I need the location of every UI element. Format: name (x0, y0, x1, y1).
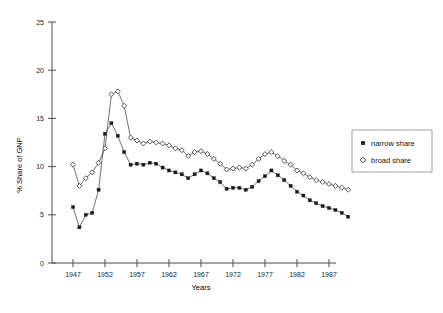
data-point (129, 163, 132, 166)
data-point (123, 151, 126, 154)
data-point (154, 140, 159, 145)
data-point (193, 173, 196, 176)
data-point (212, 177, 215, 180)
legend-label: broad share (371, 156, 411, 165)
data-point (103, 132, 106, 135)
data-point (269, 150, 274, 155)
x-axis-tick-label: 1947 (65, 271, 81, 278)
x-axis-title: Years (192, 283, 211, 292)
chart-figure: 0510152025194719521957196219671972197719… (0, 0, 443, 313)
y-axis-tick-label: 10 (36, 163, 44, 170)
x-axis-tick-label: 1962 (161, 271, 177, 278)
data-point (301, 171, 306, 176)
legend-box (352, 130, 432, 172)
data-point (231, 166, 236, 171)
data-point (339, 185, 344, 190)
data-point (334, 208, 337, 211)
data-point (327, 181, 332, 186)
data-point (84, 213, 87, 216)
data-point (347, 215, 350, 218)
data-point (283, 179, 286, 182)
chart-plot-svg: 0510152025194719521957196219671972197719… (0, 0, 443, 313)
data-point (320, 180, 325, 185)
x-axis-tick-label: 1982 (289, 271, 305, 278)
data-point (238, 186, 241, 189)
data-point (173, 146, 178, 151)
data-point (237, 165, 242, 170)
data-point (109, 92, 114, 97)
data-point (110, 122, 113, 125)
y-axis-tick-label: 25 (36, 19, 44, 26)
data-point (142, 163, 145, 166)
data-point (307, 175, 312, 180)
x-axis-tick-label: 1987 (321, 271, 337, 278)
data-point (199, 169, 202, 172)
data-point (206, 172, 209, 175)
data-point (167, 143, 172, 148)
data-point (192, 150, 197, 155)
data-point (327, 207, 330, 210)
data-point (244, 188, 247, 191)
x-axis-tick-label: 1957 (129, 271, 145, 278)
x-axis-tick-label: 1977 (257, 271, 273, 278)
data-point (71, 206, 74, 209)
data-point (167, 169, 170, 172)
x-axis-tick-label: 1972 (225, 271, 241, 278)
data-point (263, 175, 266, 178)
x-axis-tick-label: 1952 (97, 271, 113, 278)
y-axis-tick-label: 15 (36, 115, 44, 122)
data-point (243, 166, 248, 171)
data-point (333, 183, 338, 188)
data-point (289, 184, 292, 187)
data-point (340, 211, 343, 214)
data-point (257, 180, 260, 183)
data-point (308, 199, 311, 202)
data-point (315, 202, 318, 205)
data-point (219, 180, 222, 183)
axes-group: 0510152025194719521957196219671972197719… (15, 19, 337, 292)
data-point (78, 226, 81, 229)
data-point (302, 194, 305, 197)
series-group (71, 89, 351, 229)
data-point (122, 103, 127, 108)
data-point (116, 134, 119, 137)
legend-marker-filled-square (361, 141, 365, 145)
data-point (161, 166, 164, 169)
series-line (73, 91, 348, 189)
data-point (346, 187, 351, 192)
data-point (187, 177, 190, 180)
data-point (155, 162, 158, 165)
data-point (71, 162, 76, 167)
data-point (295, 190, 298, 193)
data-point (314, 178, 319, 183)
data-point (180, 173, 183, 176)
chart-legend[interactable]: narrow sharebroad share (352, 130, 432, 172)
data-point (141, 141, 146, 146)
y-axis-tick-label: 20 (36, 67, 44, 74)
data-point (276, 174, 279, 177)
y-axis-tick-label: 0 (40, 260, 44, 267)
data-point (321, 205, 324, 208)
data-point (251, 185, 254, 188)
legend-label: narrow share (371, 139, 415, 148)
y-axis-title: % Share of GNP (15, 137, 24, 192)
data-point (147, 139, 152, 144)
data-point (199, 149, 204, 154)
data-point (135, 162, 138, 165)
data-point (231, 186, 234, 189)
y-axis-tick-label: 5 (40, 211, 44, 218)
data-point (148, 161, 151, 164)
data-point (115, 89, 120, 94)
data-point (96, 160, 101, 165)
data-point (174, 171, 177, 174)
data-point (270, 169, 273, 172)
data-point (128, 135, 133, 140)
data-point (160, 141, 165, 146)
series-broad-share (71, 89, 351, 192)
data-point (135, 138, 140, 143)
series-narrow-share (71, 122, 349, 229)
x-axis-tick-label: 1967 (193, 271, 209, 278)
data-point (97, 188, 100, 191)
data-point (91, 211, 94, 214)
data-point (225, 187, 228, 190)
